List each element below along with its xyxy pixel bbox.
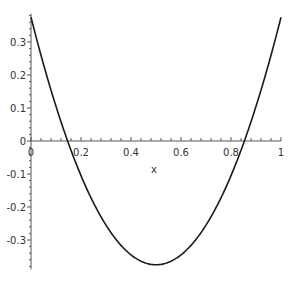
x-tick-label: 1 [278, 147, 284, 158]
x-axis-label: x [151, 164, 157, 175]
y-tick-label: -0.1 [6, 169, 26, 180]
y-tick-label: 0.1 [10, 103, 26, 114]
y-tick-label: -0.2 [6, 202, 26, 213]
y-tick-label: 0.2 [10, 70, 26, 81]
x-tick-label: 0.4 [123, 147, 139, 158]
line-chart: 0.30.20.10-0.1-0.2-0.300.20.40.60.81x [0, 0, 295, 282]
x-tick-label: 0.6 [173, 147, 189, 158]
x-tick-label: 0.2 [73, 147, 89, 158]
y-tick-label: -0.3 [6, 235, 26, 246]
y-tick-label: 0.3 [10, 37, 26, 48]
x-tick-label: 0 [28, 147, 34, 158]
x-tick-label: 0.8 [223, 147, 239, 158]
y-tick-label: 0 [20, 136, 26, 147]
